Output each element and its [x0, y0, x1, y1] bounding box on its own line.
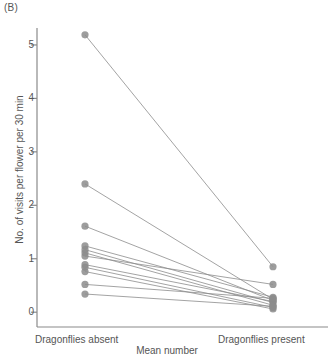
slope-line-pair-5: [85, 250, 273, 303]
data-point-pair-1-present: [269, 263, 276, 270]
data-point-pair-12-present: [269, 303, 276, 310]
y-axis-label: No. of visits per flower per 30 min: [14, 75, 25, 265]
data-point-pair-7-absent: [81, 252, 88, 259]
slope-lines: [85, 35, 273, 309]
figure-panel-b: (B) No. of visits per flower per 30 min …: [0, 0, 334, 361]
slope-line-pair-1: [85, 35, 273, 267]
slope-line-pair-4: [85, 246, 273, 297]
x-category-label-present: Dragonflies present: [218, 334, 305, 345]
y-tick-label-4: 4: [18, 93, 34, 103]
data-point-pair-1-absent: [81, 31, 88, 38]
data-point-pair-11-absent: [81, 281, 88, 288]
x-category-label-absent: Dragonflies absent: [35, 334, 118, 345]
y-tick-label-0: 0: [18, 307, 34, 317]
data-point-pair-12-absent: [81, 290, 88, 297]
y-tick-label-2: 2: [18, 200, 34, 210]
slope-line-pair-9: [85, 267, 273, 307]
y-tick-label-1: 1: [18, 254, 34, 264]
y-axis-ticks: [31, 45, 37, 312]
data-point-pair-3-absent: [81, 223, 88, 230]
slope-line-pair-10: [85, 272, 273, 309]
data-point-pair-11-present: [269, 295, 276, 302]
plot-area: [0, 0, 334, 361]
data-point-pair-10-absent: [81, 268, 88, 275]
y-tick-label-5: 5: [18, 40, 34, 50]
axis-spines: [37, 28, 328, 327]
data-point-pair-7-present: [269, 281, 276, 288]
panel-label: (B): [4, 2, 18, 14]
data-point-pair-2-absent: [81, 180, 88, 187]
y-tick-label-3: 3: [18, 147, 34, 157]
slope-line-pair-2: [85, 184, 273, 299]
x-axis-label: Mean number: [0, 345, 334, 356]
